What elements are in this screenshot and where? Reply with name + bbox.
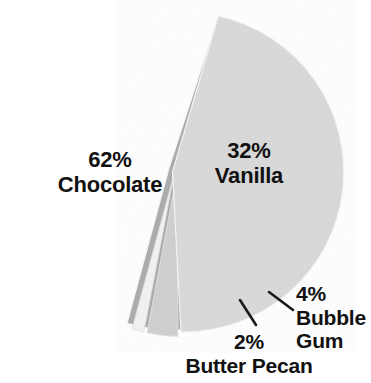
- slice-label-chocolate: 62% Chocolate: [38, 148, 182, 197]
- slice-percent-bubble-gum: 4%: [296, 282, 371, 306]
- slice-percent-vanilla: 32%: [190, 139, 308, 164]
- slice-percent-butter-pecan: 2%: [164, 330, 334, 354]
- slice-percent-chocolate: 62%: [38, 148, 182, 173]
- slice-name-chocolate: Chocolate: [38, 173, 182, 198]
- slice-name-butter-pecan: Butter Pecan: [164, 354, 334, 378]
- slice-name-bubble-gum-line1: Bubble: [296, 306, 371, 330]
- pie-chart: 62% Chocolate 32% Vanilla 4% Bubble Gum …: [0, 0, 371, 383]
- slice-label-vanilla: 32% Vanilla: [190, 139, 308, 188]
- slice-name-vanilla: Vanilla: [190, 164, 308, 189]
- slice-label-butter-pecan: 2% Butter Pecan: [164, 330, 334, 377]
